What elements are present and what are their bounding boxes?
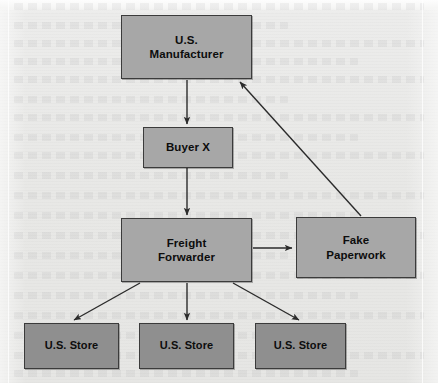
diagram-page: U.S. ManufacturerBuyer XFreight Forwarde… [0, 0, 438, 383]
node-label-forwarder: Freight Forwarder [158, 236, 215, 264]
node-label-paperwork: Fake Paperwork [326, 233, 386, 261]
ghost-text-line [14, 172, 288, 179]
ghost-text-line [14, 192, 424, 199]
page-edge-line-right [422, 0, 423, 383]
node-label-manufacturer: U.S. Manufacturer [149, 33, 223, 61]
ghost-text-line [14, 312, 424, 319]
node-store2: U.S. Store [139, 323, 234, 369]
node-label-buyer: Buyer X [166, 140, 210, 154]
node-label-store1: U.S. Store [45, 339, 99, 352]
node-buyer: Buyer X [143, 127, 233, 168]
ghost-text-line [14, 3, 424, 10]
node-label-store3: U.S. Store [274, 339, 328, 352]
node-paperwork: Fake Paperwork [296, 217, 416, 278]
node-store1: U.S. Store [24, 323, 119, 369]
node-manufacturer: U.S. Manufacturer [121, 15, 252, 79]
node-store3: U.S. Store [255, 323, 346, 369]
ghost-text-line [14, 96, 288, 103]
page-edge-line-left [8, 0, 9, 383]
ghost-text-line [14, 370, 358, 377]
node-label-store2: U.S. Store [160, 339, 214, 352]
ghost-text-line [14, 292, 358, 299]
ghost-text-line [14, 114, 424, 121]
node-forwarder: Freight Forwarder [121, 218, 252, 282]
